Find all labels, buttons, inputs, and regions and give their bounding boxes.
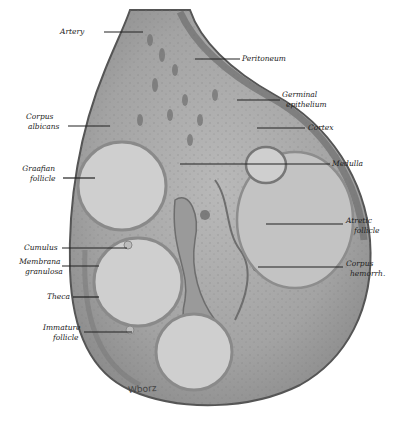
label-cortex: Cortex <box>308 123 334 133</box>
label-medulla: Medulla <box>332 159 363 169</box>
label-peritoneum: Peritoneum <box>242 54 286 64</box>
label-membrana-granulosa: Membranagranulosa <box>17 257 63 277</box>
label-corpus-albicans: Corpusalbicans <box>20 112 59 132</box>
artist-signature: Wborz <box>128 383 157 395</box>
label-artery: Artery <box>60 27 84 37</box>
label-cumulus: Cumulus <box>24 243 58 253</box>
label-immature-follicle: Immaturefollicle <box>43 323 81 343</box>
immature-follicle-large <box>156 314 232 390</box>
ovary-section-illustration <box>0 0 397 423</box>
label-germinal-epithelium: Germinalepithelium <box>282 90 327 110</box>
label-graafian-follicle: Graafianfollicle <box>22 164 56 184</box>
label-theca: Theca <box>47 292 70 302</box>
label-corpus-hemorrh: Corpushemorrh. <box>346 259 385 279</box>
membrana-follicle <box>94 238 182 326</box>
label-atretic-follicle: Atreticfollicle <box>346 216 380 236</box>
graafian-follicle <box>78 142 166 230</box>
